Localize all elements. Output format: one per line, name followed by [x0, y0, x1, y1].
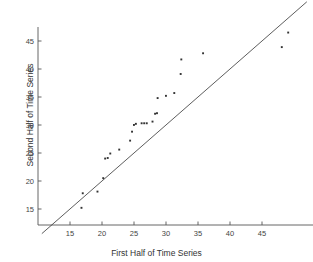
data-point [180, 73, 182, 75]
data-point [180, 58, 182, 60]
data-point [154, 113, 156, 115]
scatter-plot-figure: Second Half of Time Series First Half of… [0, 0, 313, 262]
data-point [81, 207, 83, 209]
x-tick-label: 45 [258, 229, 266, 238]
data-point [118, 149, 120, 151]
data-point [104, 158, 106, 160]
y-tick-label: 35 [16, 93, 34, 102]
data-point [141, 122, 143, 124]
x-axis-label: First Half of Time Series [0, 248, 313, 258]
x-tick-label: 20 [98, 229, 106, 238]
data-point [287, 32, 289, 34]
data-point [129, 140, 131, 142]
data-point [143, 122, 145, 124]
data-point [82, 192, 84, 194]
data-point [97, 191, 99, 193]
x-tick-label: 30 [162, 229, 170, 238]
data-point [173, 92, 175, 94]
data-point [202, 52, 204, 54]
data-point [109, 153, 111, 155]
y-tick-label: 45 [16, 37, 34, 46]
data-point [131, 131, 133, 133]
y-tick-label: 30 [16, 121, 34, 130]
y-tick-label: 20 [16, 177, 34, 186]
x-tick-label: 15 [66, 229, 74, 238]
data-point [107, 157, 109, 159]
data-point [165, 95, 167, 97]
data-point [135, 123, 137, 125]
x-tick-label: 35 [194, 229, 202, 238]
plot-canvas [0, 0, 313, 262]
data-point [156, 112, 158, 114]
y-tick-label: 25 [16, 149, 34, 158]
data-point [152, 121, 154, 123]
data-point [133, 124, 135, 126]
data-point [146, 122, 148, 124]
data-point [281, 46, 283, 48]
x-tick-label: 40 [226, 229, 234, 238]
x-tick-label: 25 [130, 229, 138, 238]
y-tick-label: 15 [16, 205, 34, 214]
data-point [102, 177, 104, 179]
identity-reference-line [42, 2, 307, 234]
data-point [157, 97, 159, 99]
y-tick-label: 40 [16, 65, 34, 74]
y-axis-label-container: Second Half of Time Series [6, 0, 20, 230]
